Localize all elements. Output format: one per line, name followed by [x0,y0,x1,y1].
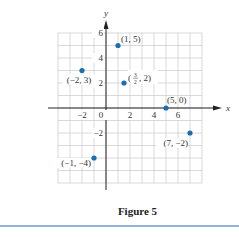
x-tick-label: 0 [99,110,104,120]
point-marker-icon [121,80,126,85]
point-label: ( [128,73,131,83]
point-label: (−1, −4) [61,158,91,168]
figure-caption: Figure 5 [0,205,239,217]
data-point: (−1, −4) [54,155,96,168]
point-marker-icon [187,130,192,135]
y-tick-label: 2 [99,78,104,88]
svg-text:, 2): , 2) [139,73,151,83]
y-axis-label: y [103,8,108,18]
x-tick-label: −2 [77,110,87,120]
x-tick-label: 6 [176,110,181,120]
point-marker-icon [79,68,84,73]
point-label: (5, 0) [167,95,187,105]
point-marker-icon [115,43,120,48]
point-label: (7, −2) [163,138,188,148]
point-label: (1, 5) [121,34,141,44]
point-label: (−2, 3) [67,75,92,85]
coordinate-plane-chart: xy −20246642−2 (1, 5)(−2, 3)(32, 2)(5, 0… [0,0,239,237]
svg-text:2: 2 [134,79,137,85]
point-marker-icon [91,155,96,160]
y-tick-label: −2 [93,128,103,138]
y-tick-label: 4 [99,53,104,63]
data-points: (1, 5)(−2, 3)(32, 2)(5, 0)(7, −2)(−1, −4… [54,34,192,169]
svg-text:3: 3 [134,72,137,78]
x-axis-arrow-icon [213,106,222,111]
point-marker-icon [163,105,168,110]
data-point: (1, 5) [115,34,140,49]
x-tick-label: 4 [152,110,157,120]
y-tick-label: 6 [99,28,104,38]
x-axis-label: x [225,103,230,113]
y-axis-arrow-icon [104,20,109,29]
x-tick-label: 2 [128,110,133,120]
divider-rule [0,225,239,227]
